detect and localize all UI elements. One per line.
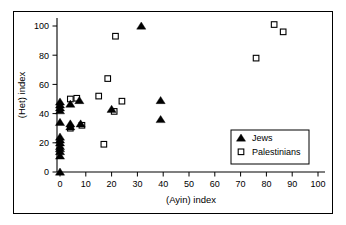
data-point-jews — [156, 96, 165, 103]
x-tick-label: 10 — [81, 179, 91, 189]
x-axis-tick-labels: 0102030405060708090100 — [57, 179, 325, 189]
data-point-jews — [156, 115, 165, 122]
y-tick-label: 60 — [39, 80, 49, 90]
data-point-palestinians — [96, 93, 102, 99]
data-point-palestinians — [119, 98, 125, 104]
legend-label: Jews — [252, 133, 273, 143]
legend-marker-palestinians — [238, 149, 244, 155]
x-tick-label: 40 — [158, 179, 168, 189]
x-axis-ticks — [60, 172, 318, 177]
y-tick-label: 100 — [34, 21, 49, 31]
y-axis-title: (Het) index — [16, 72, 27, 119]
data-point-jews — [66, 120, 75, 127]
x-tick-label: 60 — [210, 179, 220, 189]
data-point-palestinians — [105, 76, 111, 82]
y-tick-label: 20 — [39, 138, 49, 148]
data-point-palestinians — [113, 33, 119, 39]
series-palestinians — [68, 22, 286, 147]
x-axis-title: (Ayin) index — [166, 194, 216, 205]
plot-canvas: 0102030405060708090100 020406080100 (Ayi… — [0, 0, 346, 225]
x-tick-label: 30 — [132, 179, 142, 189]
x-tick-label: 90 — [287, 179, 297, 189]
data-point-jews — [137, 22, 146, 29]
data-point-palestinians — [253, 55, 259, 61]
y-axis-tick-labels: 020406080100 — [34, 21, 49, 177]
data-point-palestinians — [271, 22, 277, 28]
scatter-plot-figure: 0102030405060708090100 020406080100 (Ayi… — [0, 0, 346, 225]
x-tick-label: 70 — [236, 179, 246, 189]
data-point-palestinians — [280, 29, 286, 35]
legend-label: Palestinians — [252, 147, 301, 157]
y-tick-label: 80 — [39, 51, 49, 61]
x-tick-label: 80 — [261, 179, 271, 189]
y-tick-label: 40 — [39, 109, 49, 119]
x-tick-label: 50 — [184, 179, 194, 189]
legend: JewsPalestinians — [231, 130, 309, 164]
y-tick-label: 0 — [44, 167, 49, 177]
x-tick-label: 100 — [310, 179, 325, 189]
data-point-palestinians — [101, 141, 107, 147]
x-tick-label: 0 — [57, 179, 62, 189]
x-tick-label: 20 — [107, 179, 117, 189]
